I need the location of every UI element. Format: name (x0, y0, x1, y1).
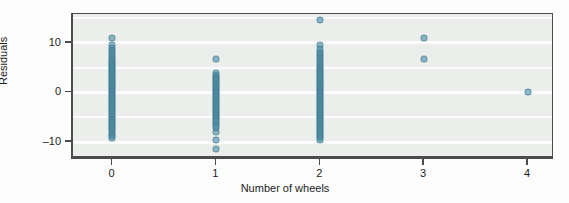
y-axis-tick-label: –10 (28, 136, 61, 147)
data-point (421, 56, 428, 63)
y-axis-line (71, 13, 73, 157)
x-axis-tick-label: 0 (91, 168, 131, 179)
gridline-minor (73, 67, 552, 69)
x-axis-tick (319, 159, 321, 165)
y-axis-tick-label: 0 (28, 86, 61, 97)
x-axis-tick-label: 3 (403, 168, 443, 179)
y-axis-tick (65, 140, 71, 142)
x-axis-tick-label: 4 (507, 168, 547, 179)
data-point (109, 34, 116, 41)
data-point (213, 56, 220, 63)
x-axis-line (71, 157, 553, 159)
y-axis-tick (65, 41, 71, 43)
data-point (213, 146, 220, 153)
x-axis-tick-label: 2 (299, 168, 339, 179)
gridline-minor (73, 116, 552, 118)
gridline-major (73, 41, 552, 44)
y-axis-tick (65, 91, 71, 93)
data-point (213, 137, 220, 144)
data-point (525, 89, 532, 96)
x-axis-title: Number of wheels (241, 182, 330, 194)
y-axis-tick-label: 10 (28, 36, 61, 47)
data-point (213, 129, 220, 136)
residual-scatter-plot: Residuals Number of wheels –1001001234 (0, 0, 569, 203)
x-axis-tick (215, 159, 217, 165)
y-axis-title: Residuals (0, 37, 9, 85)
data-point (421, 34, 428, 41)
x-axis-tick (526, 159, 528, 165)
plot-panel (72, 13, 553, 157)
x-axis-tick (111, 159, 113, 165)
gridline-major (73, 141, 552, 144)
data-point (109, 134, 116, 141)
data-point (317, 136, 324, 143)
gridline-major (73, 91, 552, 94)
x-axis-tick (422, 159, 424, 165)
data-point (317, 17, 324, 24)
gridline-minor (73, 17, 552, 19)
x-axis-tick-label: 1 (195, 168, 235, 179)
